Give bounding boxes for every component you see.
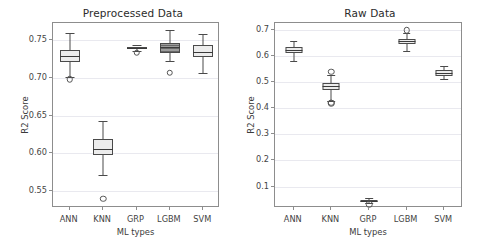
y-axis-label: R2 Score: [246, 96, 256, 133]
boxplot-svm[interactable]: [275, 23, 461, 206]
y-axis-tick: [271, 55, 274, 56]
y-axis-tick: [49, 39, 52, 40]
y-axis-tick-label: 0.5: [242, 76, 269, 86]
cap-lower: [440, 79, 448, 80]
x-axis-tick-label: LGBM: [157, 214, 181, 224]
y-axis-tick: [271, 159, 274, 160]
x-axis-tick-label: GRP: [127, 214, 144, 224]
cap-upper: [199, 34, 208, 35]
y-axis-tick-label: 0.55: [20, 185, 47, 195]
y-axis-tick-label: 0.60: [20, 147, 47, 157]
median-line: [193, 52, 213, 53]
chart-panel-raw: Raw Data 0.10.20.30.40.50.60.7R2 ScoreAN…: [242, 0, 484, 251]
x-axis-tick: [169, 207, 170, 210]
y-axis-tick-label: 0.75: [20, 34, 47, 44]
x-axis-tick-label: KNN: [93, 214, 111, 224]
x-axis-tick: [406, 207, 407, 210]
chart-title-raw: Raw Data: [242, 7, 484, 19]
y-axis-tick: [271, 81, 274, 82]
chart-panel-preprocessed: Preprocessed Data 0.550.600.650.700.75R2…: [0, 0, 242, 251]
x-axis-tick: [293, 207, 294, 210]
y-axis-tick: [49, 115, 52, 116]
y-axis-tick-label: 0.1: [242, 181, 269, 191]
y-axis-tick: [49, 190, 52, 191]
y-axis-tick: [271, 29, 274, 30]
x-axis-tick-label: ANN: [60, 214, 78, 224]
x-axis-tick-label: SVM: [193, 214, 211, 224]
boxplot-svm[interactable]: [53, 23, 218, 206]
y-axis-tick-label: 0.2: [242, 154, 269, 164]
y-axis-tick: [271, 107, 274, 108]
x-axis-label: ML types: [117, 227, 155, 237]
x-axis-tick: [443, 207, 444, 210]
boxplot-figure: Preprocessed Data 0.550.600.650.700.75R2…: [0, 0, 484, 251]
x-axis-tick: [202, 207, 203, 210]
whisker-lower: [203, 57, 204, 73]
cap-upper: [440, 66, 448, 67]
x-axis-tick-label: SVM: [434, 214, 452, 224]
y-axis-tick-label: 0.7: [242, 24, 269, 34]
y-axis-tick: [271, 133, 274, 134]
y-axis-tick: [271, 186, 274, 187]
y-axis-tick-label: 0.6: [242, 50, 269, 60]
chart-title-preprocessed: Preprocessed Data: [0, 7, 242, 19]
x-axis-tick: [136, 207, 137, 210]
y-axis-tick: [49, 152, 52, 153]
x-axis-tick: [102, 207, 103, 210]
median-line: [436, 73, 453, 74]
x-axis-tick-label: ANN: [284, 214, 302, 224]
x-axis-label: ML types: [349, 227, 387, 237]
x-axis-tick-label: LGBM: [394, 214, 418, 224]
x-axis-tick-label: GRP: [360, 214, 377, 224]
plot-area-preprocessed: [52, 22, 219, 207]
y-axis-tick: [49, 77, 52, 78]
y-axis-label: R2 Score: [20, 96, 30, 133]
cap-lower: [199, 73, 208, 74]
x-axis-tick: [368, 207, 369, 210]
x-axis-tick: [69, 207, 70, 210]
x-axis-tick-label: KNN: [322, 214, 340, 224]
y-axis-tick-label: 0.70: [20, 72, 47, 82]
x-axis-tick: [330, 207, 331, 210]
whisker-upper: [203, 34, 204, 46]
plot-area-raw: [274, 22, 462, 207]
